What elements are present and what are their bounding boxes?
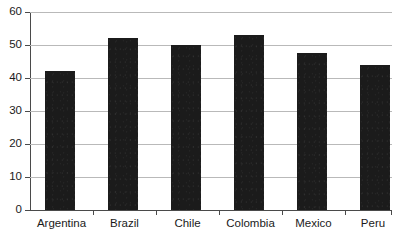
bar-chile	[171, 45, 201, 210]
y-tick-label: 30	[0, 105, 22, 117]
gridline-40	[30, 78, 392, 79]
bar-peru	[360, 65, 390, 210]
y-tick-label: 50	[0, 39, 22, 51]
bar-brazil	[108, 38, 138, 210]
y-tick-label: 40	[0, 72, 22, 84]
gridline-20	[30, 144, 392, 145]
x-tick-mark	[345, 210, 346, 215]
y-axis-tick-labels: 60 50 40 30 20 10 0	[0, 0, 22, 237]
axis-baseline	[30, 210, 392, 211]
gridline-60	[30, 12, 392, 13]
x-tick-mark	[219, 210, 220, 215]
x-tick-mark	[282, 210, 283, 215]
x-category-label-peru: Peru	[345, 216, 400, 230]
x-tick-mark	[156, 210, 157, 215]
x-category-label-brazil: Brazil	[93, 216, 156, 230]
x-category-label-mexico: Mexico	[282, 216, 345, 230]
plot-area	[30, 12, 392, 210]
bar-colombia	[234, 35, 264, 210]
bar-chart: 60 50 40 30 20 10 0 Argentina Brazil Chi…	[0, 0, 400, 237]
gridline-50	[30, 45, 392, 46]
x-axis-end-tick	[391, 210, 392, 215]
gridline-30	[30, 111, 392, 112]
bar-mexico	[297, 53, 327, 210]
y-tick-label: 0	[0, 204, 22, 216]
x-category-label-colombia: Colombia	[219, 216, 282, 230]
x-category-label-chile: Chile	[156, 216, 219, 230]
y-tick-label: 20	[0, 138, 22, 150]
gridline-10	[30, 177, 392, 178]
x-tick-mark	[93, 210, 94, 215]
y-tick-label: 10	[0, 171, 22, 183]
x-category-label-argentina: Argentina	[30, 216, 93, 230]
bar-argentina	[45, 71, 75, 210]
y-tick-label: 60	[0, 6, 22, 18]
